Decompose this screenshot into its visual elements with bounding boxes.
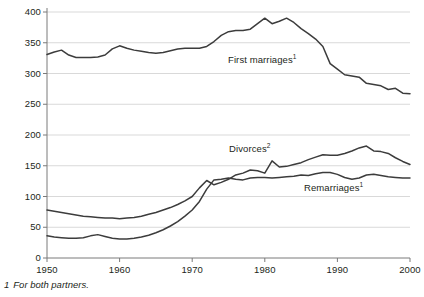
series-label-remarriages: Remarriages1 [304,182,363,193]
y-tick-label: 250 [5,98,41,109]
axis-ticks-group [43,12,410,262]
series-label-text: Divorces [229,143,267,154]
series-label-footnote-ref: 2 [267,142,271,149]
x-tick-label: 1970 [172,264,212,275]
y-tick-label: 300 [5,68,41,79]
x-tick-label: 1980 [245,264,285,275]
y-tick-label: 100 [5,191,41,202]
series-label-first-marriages: First marriages1 [228,54,297,65]
gridlines-group [47,12,410,227]
series-label-text: Remarriages [304,182,359,193]
marriage-divorce-line-chart: 050100150200250300350400 195019601970198… [0,0,424,297]
x-tick-label: 1990 [317,264,357,275]
chart-footnote: 1For both partners. [4,279,89,290]
series-label-text: First marriages [228,54,293,65]
y-tick-label: 0 [5,252,41,263]
footnote-text: For both partners. [13,279,89,290]
chart-plot-area [0,0,424,297]
series-label-footnote-ref: 1 [293,53,297,60]
y-tick-label: 350 [5,37,41,48]
y-tick-label: 400 [5,6,41,17]
x-tick-label: 2000 [390,264,424,275]
x-tick-label: 1950 [27,264,67,275]
y-tick-label: 200 [5,129,41,140]
footnote-number: 1 [4,279,9,290]
series-lines-group [47,18,410,239]
series-label-divorces: Divorces2 [229,143,270,154]
axes-group [47,8,410,258]
x-tick-label: 1960 [100,264,140,275]
y-tick-label: 150 [5,160,41,171]
series-label-footnote-ref: 1 [359,181,363,188]
y-tick-label: 50 [5,221,41,232]
